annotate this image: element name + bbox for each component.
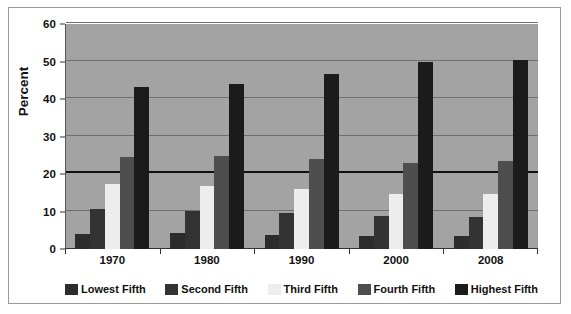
y-tick-label-20: 20 xyxy=(43,168,56,180)
legend-label: Lowest Fifth xyxy=(81,283,146,295)
gridline-60 xyxy=(66,22,538,23)
x-axis: 19701980199020002008 xyxy=(65,249,538,273)
bar-1990-second-fifth xyxy=(279,213,294,249)
legend-swatch-icon-1 xyxy=(165,284,178,295)
chart-legend: Lowest FifthSecond FifthThird FifthFourt… xyxy=(65,280,538,298)
legend-item-second-fifth[interactable]: Second Fifth xyxy=(165,283,248,295)
bar-1970-second-fifth xyxy=(90,209,105,250)
x-tick-mark-4 xyxy=(443,249,444,254)
bar-2000-lowest-fifth xyxy=(359,236,374,250)
legend-item-fourth-fifth[interactable]: Fourth Fifth xyxy=(358,283,436,295)
bar-2008-third-fifth xyxy=(483,194,498,249)
bar-group-2000 xyxy=(359,24,433,249)
legend-swatch-icon-2 xyxy=(268,284,281,295)
bar-group-1980 xyxy=(170,24,244,249)
y-axis: Percent 0102030405060 xyxy=(9,8,65,250)
y-tick-label-60: 60 xyxy=(43,18,56,30)
legend-label: Fourth Fifth xyxy=(374,283,436,295)
bar-1970-lowest-fifth xyxy=(75,234,90,249)
x-tick-label-2008: 2008 xyxy=(478,254,504,266)
bar-2000-second-fifth xyxy=(374,216,389,249)
bar-2008-second-fifth xyxy=(469,217,484,249)
bar-2000-third-fifth xyxy=(389,194,404,250)
y-tick-label-30: 30 xyxy=(43,131,56,143)
legend-item-lowest-fifth[interactable]: Lowest Fifth xyxy=(65,283,146,295)
bar-1970-fourth-fifth xyxy=(120,157,135,249)
bar-2008-fourth-fifth xyxy=(498,161,513,250)
x-tick-label-2000: 2000 xyxy=(383,254,409,266)
bar-1980-second-fifth xyxy=(185,211,200,249)
legend-label: Highest Fifth xyxy=(471,283,538,295)
bar-2000-fourth-fifth xyxy=(403,163,418,249)
bar-2008-lowest-fifth xyxy=(454,236,469,249)
legend-swatch-icon-3 xyxy=(358,284,371,295)
bar-1970-highest-fifth xyxy=(134,87,149,249)
y-axis-title: Percent xyxy=(16,32,31,152)
x-tick-mark-1 xyxy=(160,249,161,254)
bar-group-2008 xyxy=(454,24,528,249)
x-tick-mark-2 xyxy=(254,249,255,254)
y-tick-label-0: 0 xyxy=(50,243,57,255)
bar-series-container xyxy=(65,24,538,249)
legend-swatch-icon-4 xyxy=(455,284,468,295)
y-tick-label-10: 10 xyxy=(43,206,56,218)
x-tick-label-1970: 1970 xyxy=(100,254,126,266)
legend-item-highest-fifth[interactable]: Highest Fifth xyxy=(455,283,538,295)
bar-1980-lowest-fifth xyxy=(170,233,185,249)
x-tick-mark-end xyxy=(537,249,538,254)
bar-1980-highest-fifth xyxy=(229,84,244,249)
chart-frame: Percent 0102030405060 197019801990200020… xyxy=(8,7,561,304)
bar-1990-fourth-fifth xyxy=(309,159,324,249)
bar-1990-third-fifth xyxy=(294,189,309,249)
bar-1970-third-fifth xyxy=(105,184,120,249)
legend-item-third-fifth[interactable]: Third Fifth xyxy=(268,283,338,295)
x-tick-mark-0 xyxy=(65,249,66,254)
bar-1980-fourth-fifth xyxy=(214,156,229,249)
bar-1980-third-fifth xyxy=(200,186,215,249)
x-tick-mark-3 xyxy=(349,249,350,254)
y-tick-label-50: 50 xyxy=(43,56,56,68)
x-tick-label-1980: 1980 xyxy=(194,254,220,266)
legend-label: Third Fifth xyxy=(284,283,338,295)
bar-2000-highest-fifth xyxy=(418,62,433,249)
bar-1990-highest-fifth xyxy=(324,74,339,249)
legend-swatch-icon-0 xyxy=(65,284,78,295)
bar-1990-lowest-fifth xyxy=(265,235,280,249)
x-tick-label-1990: 1990 xyxy=(289,254,315,266)
bar-2008-highest-fifth xyxy=(513,60,528,249)
y-tick-label-40: 40 xyxy=(43,93,56,105)
bar-group-1970 xyxy=(75,24,149,249)
legend-label: Second Fifth xyxy=(181,283,248,295)
bar-group-1990 xyxy=(265,24,339,249)
